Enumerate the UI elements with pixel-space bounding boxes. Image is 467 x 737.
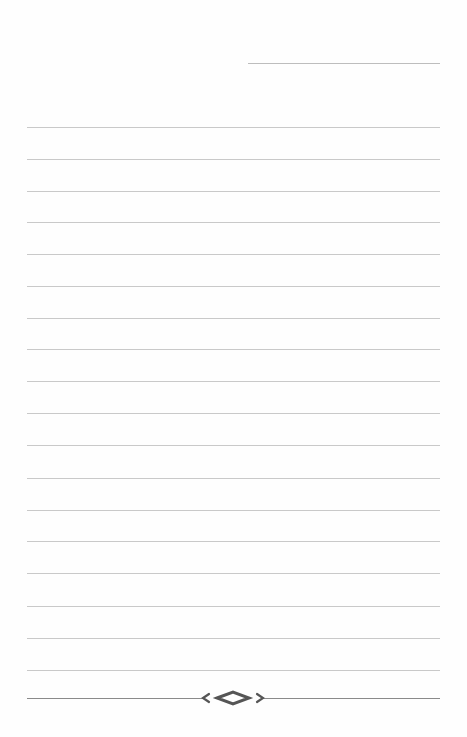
ruled-line (27, 127, 440, 128)
ruled-line (27, 638, 440, 639)
date-line (248, 63, 440, 64)
ruled-line (27, 541, 440, 542)
ruled-line (27, 510, 440, 511)
ruled-line (27, 413, 440, 414)
ruled-line (27, 222, 440, 223)
footer-line-right (262, 698, 440, 699)
ruled-line (27, 573, 440, 574)
ruled-line (27, 254, 440, 255)
ruled-line (27, 478, 440, 479)
ruled-line (27, 318, 440, 319)
ruled-line (27, 606, 440, 607)
ruled-line (27, 670, 440, 671)
diamond-flourish-icon (200, 690, 266, 706)
ruled-line (27, 381, 440, 382)
ruled-line (27, 159, 440, 160)
notepaper (0, 0, 467, 737)
ruled-line (27, 445, 440, 446)
ruled-line (27, 349, 440, 350)
ruled-line (27, 191, 440, 192)
footer-line-left (27, 698, 203, 699)
ruled-line (27, 286, 440, 287)
